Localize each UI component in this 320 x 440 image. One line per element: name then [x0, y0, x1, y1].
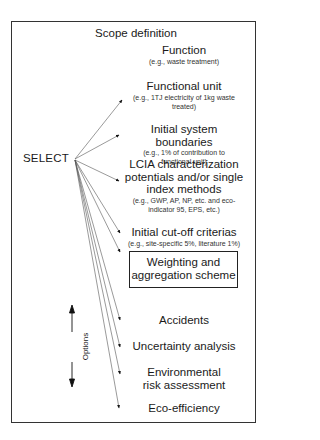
- item-main: Function: [122, 44, 246, 57]
- item-main: Functional unit: [122, 80, 246, 93]
- item-sub: (e.g., GWP, AP, NP, etc. and eco-indicat…: [122, 196, 246, 214]
- item-lcia: LCIA characterization potentials and/or …: [122, 158, 246, 214]
- weighting-box: Weighting and aggregation scheme: [129, 251, 238, 288]
- item-cutoff: Initial cut-off criterias (e.g., site-sp…: [122, 226, 246, 248]
- item-sub: (e.g., site-specific 5%, literature 1%): [122, 239, 246, 248]
- item-eco-efficiency: Eco-efficiency: [122, 402, 246, 415]
- item-main: Initial system boundaries: [122, 123, 246, 148]
- item-main: LCIA characterization potentials and/or …: [122, 158, 246, 196]
- item-function: Function (e.g., waste treatment): [122, 44, 246, 66]
- item-main: Environmental risk assessment: [122, 366, 246, 391]
- options-label: Options: [81, 332, 90, 362]
- item-main: Initial cut-off criterias: [122, 226, 246, 239]
- item-uncertainty: Uncertainty analysis: [122, 340, 246, 353]
- item-sub: (e.g., 1TJ electricity of 1kg waste trea…: [122, 93, 246, 111]
- item-risk-assessment: Environmental risk assessment: [122, 366, 246, 391]
- item-main: Uncertainty analysis: [122, 340, 246, 353]
- item-main: Eco-efficiency: [122, 402, 246, 415]
- item-functional-unit: Functional unit (e.g., 1TJ electricity o…: [122, 80, 246, 111]
- item-main: Accidents: [122, 314, 246, 327]
- item-sub: (e.g., waste treatment): [122, 57, 246, 66]
- item-accidents: Accidents: [122, 314, 246, 327]
- options-double-arrow: [70, 305, 75, 387]
